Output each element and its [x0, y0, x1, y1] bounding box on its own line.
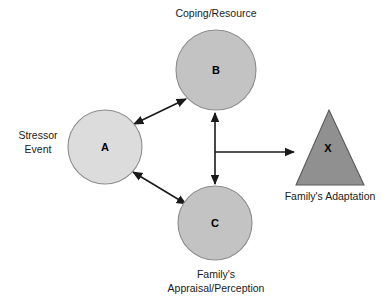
- edge-a-b: [134, 99, 186, 124]
- node-a-letter: A: [101, 141, 109, 153]
- node-c-letter: C: [211, 217, 219, 229]
- node-x-letter: X: [324, 142, 332, 154]
- caption-family-adaptation: Family's Adaptation: [285, 190, 376, 202]
- caption-appraisal-line1: Family's: [197, 268, 235, 280]
- caption-stressor-line1: Stressor: [18, 129, 58, 141]
- node-b-letter: B: [212, 64, 220, 76]
- edge-a-c: [133, 172, 186, 204]
- caption-stressor-line2: Event: [25, 143, 52, 155]
- caption-appraisal-line2: Appraisal/Perception: [168, 282, 265, 294]
- abcx-model-diagram: A B C X Coping/Resource Stressor Event F…: [0, 0, 392, 302]
- diagram-canvas: A B C X Coping/Resource Stressor Event F…: [0, 0, 392, 302]
- caption-coping-resource: Coping/Resource: [175, 7, 256, 19]
